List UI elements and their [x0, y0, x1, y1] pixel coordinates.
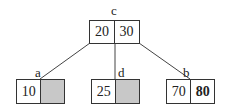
empty-key-cell: [115, 80, 139, 103]
node-b: 70 80: [166, 79, 215, 104]
key-cell: 30: [114, 21, 138, 43]
key-cell: 20: [90, 21, 114, 43]
key-cell: 10: [17, 80, 40, 103]
node-a: 10: [16, 79, 65, 104]
key-cell-highlighted: 80: [190, 80, 214, 103]
node-label-a: a: [35, 66, 41, 79]
node-label-c: c: [111, 4, 117, 17]
key-cell: 25: [92, 80, 115, 103]
edge-c-a: [40, 43, 90, 79]
node-d: 25: [91, 79, 140, 104]
node-c: 20 30: [89, 20, 140, 44]
node-label-b: b: [183, 66, 190, 79]
key-cell: 70: [167, 80, 190, 103]
node-label-d: d: [118, 66, 125, 79]
empty-key-cell: [40, 80, 64, 103]
